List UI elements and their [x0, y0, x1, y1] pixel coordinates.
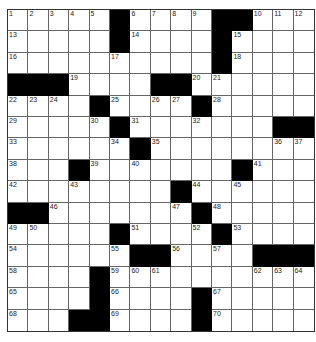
- grid-cell[interactable]: [253, 181, 273, 202]
- grid-cell[interactable]: [151, 288, 171, 309]
- grid-cell[interactable]: [28, 310, 48, 331]
- grid-cell[interactable]: [273, 31, 293, 52]
- grid-cell[interactable]: 21: [212, 74, 232, 95]
- grid-cell[interactable]: [171, 288, 191, 309]
- grid-cell[interactable]: 51: [130, 224, 150, 245]
- grid-cell[interactable]: [90, 203, 110, 224]
- grid-cell[interactable]: [171, 117, 191, 138]
- grid-cell[interactable]: [212, 267, 232, 288]
- grid-cell[interactable]: [151, 203, 171, 224]
- grid-cell[interactable]: [232, 203, 252, 224]
- grid-cell[interactable]: 8: [171, 10, 191, 31]
- grid-cell[interactable]: [90, 245, 110, 266]
- grid-cell[interactable]: 9: [192, 10, 212, 31]
- grid-cell[interactable]: [49, 310, 69, 331]
- grid-cell[interactable]: [253, 224, 273, 245]
- grid-cell[interactable]: 1: [8, 10, 28, 31]
- grid-cell[interactable]: [294, 203, 314, 224]
- grid-cell[interactable]: [192, 245, 212, 266]
- grid-cell[interactable]: [130, 96, 150, 117]
- grid-cell[interactable]: [49, 245, 69, 266]
- grid-cell[interactable]: 20: [192, 74, 212, 95]
- grid-cell[interactable]: [192, 267, 212, 288]
- grid-cell[interactable]: 46: [49, 203, 69, 224]
- grid-cell[interactable]: 35: [151, 138, 171, 159]
- grid-cell[interactable]: [253, 53, 273, 74]
- grid-cell[interactable]: [171, 267, 191, 288]
- grid-cell[interactable]: 55: [110, 245, 130, 266]
- grid-cell[interactable]: 44: [192, 181, 212, 202]
- grid-cell[interactable]: 38: [8, 160, 28, 181]
- grid-cell[interactable]: 70: [212, 310, 232, 331]
- grid-cell[interactable]: [28, 160, 48, 181]
- grid-cell[interactable]: [232, 74, 252, 95]
- grid-cell[interactable]: 43: [69, 181, 89, 202]
- grid-cell[interactable]: [49, 267, 69, 288]
- grid-cell[interactable]: 7: [151, 10, 171, 31]
- grid-cell[interactable]: [69, 267, 89, 288]
- grid-cell[interactable]: [294, 160, 314, 181]
- grid-cell[interactable]: 32: [192, 117, 212, 138]
- grid-cell[interactable]: [69, 31, 89, 52]
- grid-cell[interactable]: [294, 181, 314, 202]
- grid-cell[interactable]: [294, 224, 314, 245]
- grid-cell[interactable]: [232, 117, 252, 138]
- grid-cell[interactable]: [232, 267, 252, 288]
- grid-cell[interactable]: [232, 288, 252, 309]
- grid-cell[interactable]: [273, 181, 293, 202]
- grid-cell[interactable]: 26: [151, 96, 171, 117]
- grid-cell[interactable]: 18: [232, 53, 252, 74]
- grid-cell[interactable]: [110, 181, 130, 202]
- grid-cell[interactable]: [253, 203, 273, 224]
- grid-cell[interactable]: 53: [232, 224, 252, 245]
- grid-cell[interactable]: [253, 31, 273, 52]
- grid-cell[interactable]: [28, 117, 48, 138]
- grid-cell[interactable]: [212, 160, 232, 181]
- grid-cell[interactable]: [171, 224, 191, 245]
- grid-cell[interactable]: [212, 181, 232, 202]
- grid-cell[interactable]: [151, 310, 171, 331]
- grid-cell[interactable]: [69, 53, 89, 74]
- grid-cell[interactable]: [212, 138, 232, 159]
- grid-cell[interactable]: [130, 310, 150, 331]
- grid-cell[interactable]: 30: [90, 117, 110, 138]
- grid-cell[interactable]: 66: [110, 288, 130, 309]
- grid-cell[interactable]: [69, 288, 89, 309]
- grid-cell[interactable]: [151, 31, 171, 52]
- grid-cell[interactable]: [273, 224, 293, 245]
- grid-cell[interactable]: 24: [49, 96, 69, 117]
- grid-cell[interactable]: 37: [294, 138, 314, 159]
- grid-cell[interactable]: [294, 288, 314, 309]
- grid-cell[interactable]: 52: [192, 224, 212, 245]
- grid-cell[interactable]: [49, 288, 69, 309]
- grid-cell[interactable]: 6: [130, 10, 150, 31]
- grid-cell[interactable]: [69, 96, 89, 117]
- grid-cell[interactable]: [253, 117, 273, 138]
- grid-cell[interactable]: [273, 53, 293, 74]
- grid-cell[interactable]: 39: [90, 160, 110, 181]
- grid-cell[interactable]: [151, 117, 171, 138]
- grid-cell[interactable]: [171, 310, 191, 331]
- grid-cell[interactable]: [90, 181, 110, 202]
- grid-cell[interactable]: 23: [28, 96, 48, 117]
- grid-cell[interactable]: 25: [110, 96, 130, 117]
- grid-cell[interactable]: [28, 53, 48, 74]
- grid-cell[interactable]: 15: [232, 31, 252, 52]
- grid-cell[interactable]: [130, 53, 150, 74]
- grid-cell[interactable]: [212, 117, 232, 138]
- grid-cell[interactable]: [232, 310, 252, 331]
- grid-cell[interactable]: [69, 138, 89, 159]
- grid-cell[interactable]: [90, 53, 110, 74]
- grid-cell[interactable]: [110, 74, 130, 95]
- grid-cell[interactable]: [69, 117, 89, 138]
- grid-cell[interactable]: [253, 310, 273, 331]
- grid-cell[interactable]: 61: [151, 267, 171, 288]
- grid-cell[interactable]: [253, 138, 273, 159]
- grid-cell[interactable]: [69, 203, 89, 224]
- grid-cell[interactable]: [110, 203, 130, 224]
- grid-cell[interactable]: [232, 96, 252, 117]
- grid-cell[interactable]: 3: [49, 10, 69, 31]
- grid-cell[interactable]: 54: [8, 245, 28, 266]
- grid-cell[interactable]: [49, 224, 69, 245]
- grid-cell[interactable]: 2: [28, 10, 48, 31]
